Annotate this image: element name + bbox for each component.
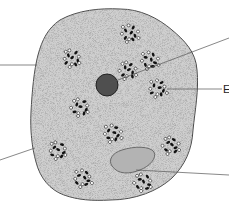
- leader-line-left-bottom: [0, 148, 35, 160]
- granule-light: [56, 154, 60, 158]
- granule-light: [63, 147, 67, 151]
- granule-light: [80, 169, 83, 172]
- granule-light: [168, 150, 171, 153]
- granule-light: [77, 55, 81, 59]
- granule-light: [68, 65, 72, 69]
- granule-light: [120, 32, 123, 35]
- granule-light: [127, 24, 130, 27]
- granule-light: [177, 142, 180, 145]
- granule-light: [70, 62, 74, 66]
- granule-light: [166, 152, 169, 155]
- cell-diagram: E: [0, 0, 229, 206]
- granule-light: [50, 142, 53, 145]
- granule-light: [104, 125, 107, 128]
- granule-light: [177, 148, 181, 152]
- granule-light: [137, 36, 140, 39]
- granule-light: [63, 57, 67, 61]
- granule-light: [167, 136, 170, 139]
- granule-light: [137, 30, 140, 33]
- granule-light: [64, 153, 67, 156]
- granule-light: [125, 41, 128, 44]
- granule-light: [49, 149, 53, 153]
- granule-light: [68, 49, 71, 52]
- nucleus: [96, 74, 118, 96]
- cytoplasm-stipple: [31, 9, 198, 201]
- granule-light: [54, 157, 58, 161]
- granule-light: [128, 38, 131, 41]
- label-right-middle: E: [223, 83, 229, 95]
- cell: [31, 9, 198, 201]
- granule-light: [161, 144, 164, 147]
